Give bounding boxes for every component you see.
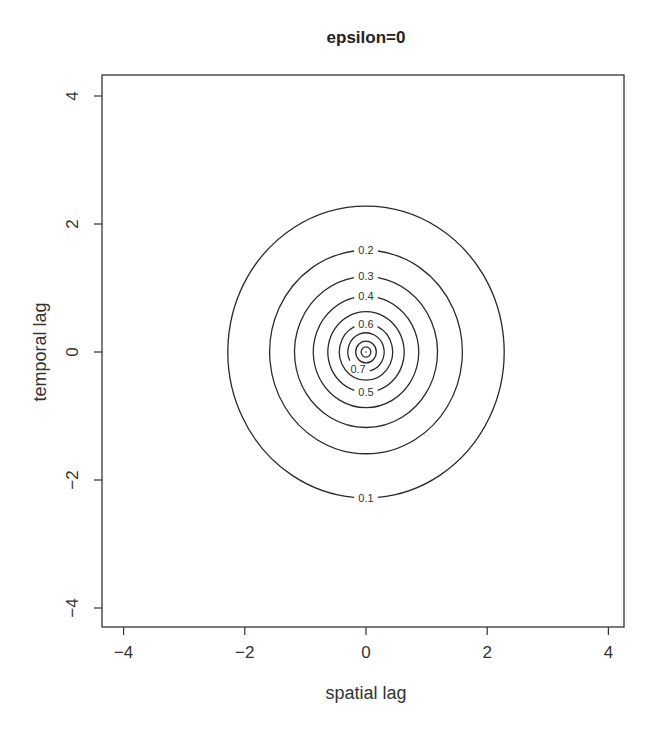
x-axis-label: spatial lag xyxy=(325,683,406,703)
center-point xyxy=(365,351,367,353)
y-tick-label: 0 xyxy=(63,347,82,356)
contour-label: 0.6 xyxy=(358,318,373,330)
y-tick-label: 4 xyxy=(63,91,82,100)
x-tick-label: 4 xyxy=(604,643,613,662)
plot-frame xyxy=(102,75,624,627)
contour-label: 0.4 xyxy=(358,290,373,302)
contour-label: 0.1 xyxy=(358,492,373,504)
contour-0.6: 0.6 xyxy=(339,318,392,380)
y-tick-label: −2 xyxy=(63,470,82,489)
contour-label: 0.5 xyxy=(358,386,373,398)
y-axis: −4−2024 xyxy=(63,91,102,617)
chart-title: epsilon=0 xyxy=(327,28,406,47)
x-axis: −4−2024 xyxy=(114,627,613,662)
x-tick-label: 2 xyxy=(482,643,491,662)
y-axis-label: temporal lag xyxy=(30,302,50,401)
contour-chart: epsilon=0 −4−2024 −4−2024 spatial lag te… xyxy=(0,0,657,730)
contour-label: 0.7 xyxy=(350,363,365,375)
x-tick-label: 0 xyxy=(361,643,370,662)
contour-0.7: 0.7 xyxy=(348,333,384,375)
x-tick-label: −4 xyxy=(114,643,133,662)
y-tick-label: 2 xyxy=(63,219,82,228)
contour-label: 0.3 xyxy=(358,270,373,282)
x-tick-label: −2 xyxy=(235,643,254,662)
y-tick-label: −4 xyxy=(63,598,82,617)
contour-label: 0.2 xyxy=(358,244,373,256)
contour-lines: 0.10.20.30.40.50.60.7 xyxy=(228,206,504,504)
